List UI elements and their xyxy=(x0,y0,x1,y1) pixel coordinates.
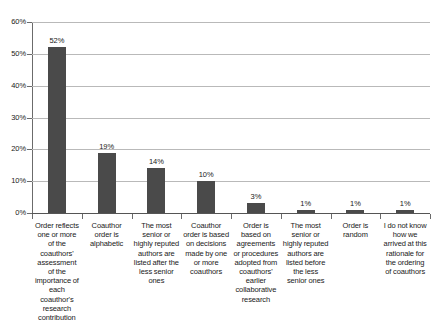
bar[interactable] xyxy=(98,153,116,213)
plot-area: 52%19%14%10%3%1%1%1% xyxy=(32,22,430,213)
bar[interactable] xyxy=(48,47,66,213)
x-axis-category-label: I do not know how we arrived at this rat… xyxy=(382,221,428,276)
x-axis-category-label: Coauthor order is based on decisions mad… xyxy=(183,221,229,276)
y-axis-tick-label: 30% xyxy=(0,114,26,122)
y-axis-tick-label: 40% xyxy=(0,82,26,90)
bar-slot[interactable]: 52% xyxy=(32,22,82,213)
bar-value-label: 10% xyxy=(199,171,214,179)
y-axis-tick-label: 20% xyxy=(0,145,26,153)
bar-slot[interactable]: 14% xyxy=(132,22,182,213)
x-axis-category-label: Coauthor order is alphabetic xyxy=(84,221,130,249)
bar-value-label: 1% xyxy=(300,200,311,208)
y-axis-tick-label-text: 0% xyxy=(0,209,26,217)
x-axis-tick-mark xyxy=(181,214,182,219)
bar-value-label: 14% xyxy=(149,158,164,166)
x-axis-tick-mark xyxy=(281,214,282,219)
y-axis-tick-label-text: 60% xyxy=(0,18,26,26)
x-axis-tick-mark xyxy=(380,214,381,219)
y-axis-tick-mark xyxy=(27,149,32,150)
bar-value-label: 1% xyxy=(350,200,361,208)
y-axis-tick-label-text: 10% xyxy=(0,177,26,185)
x-axis-category-label: The most senior or highly reputed author… xyxy=(283,221,329,285)
y-axis-tick-label-text: 20% xyxy=(0,145,26,153)
bar-slot[interactable]: 1% xyxy=(331,22,381,213)
y-axis-tick-label: 60% xyxy=(0,18,26,26)
y-axis-tick-mark xyxy=(27,22,32,23)
x-axis-category-label: Order reflects one or more of the coauth… xyxy=(34,221,80,322)
x-axis-category-labels: Order reflects one or more of the coauth… xyxy=(32,221,430,315)
y-axis-tick-mark xyxy=(27,86,32,87)
bar-slot[interactable]: 10% xyxy=(181,22,231,213)
y-axis-tick-label: 10% xyxy=(0,177,26,185)
y-axis-tick-label: 0% xyxy=(0,209,26,217)
bar-value-label: 1% xyxy=(400,200,411,208)
x-axis-tick-mark xyxy=(82,214,83,219)
bar-value-label: 52% xyxy=(50,37,65,45)
y-axis-tick-label-text: 30% xyxy=(0,114,26,122)
bar-slot[interactable]: 1% xyxy=(380,22,430,213)
y-axis-tick-label: 50% xyxy=(0,50,26,58)
x-axis-tick-mark xyxy=(32,214,33,219)
bar-value-label: 3% xyxy=(251,193,262,201)
x-axis-category-label: Order is random xyxy=(333,221,379,239)
y-axis-tick-label-text: 40% xyxy=(0,82,26,90)
bar-slot[interactable]: 19% xyxy=(82,22,132,213)
x-axis-tick-mark xyxy=(231,214,232,219)
x-axis-tick-mark xyxy=(331,214,332,219)
x-axis-category-label: The most senior or highly reputed author… xyxy=(134,221,180,285)
bar-value-label: 19% xyxy=(99,143,114,151)
y-axis-tick-mark xyxy=(27,54,32,55)
bar[interactable] xyxy=(197,181,215,213)
bar-slot[interactable]: 3% xyxy=(231,22,281,213)
bar[interactable] xyxy=(247,203,265,213)
y-axis-tick-mark xyxy=(27,181,32,182)
x-axis-category-label: Order is based on agreements or procedur… xyxy=(233,221,279,304)
y-axis-tick-mark xyxy=(27,118,32,119)
x-axis-tick-mark xyxy=(132,214,133,219)
x-axis-tick-mark xyxy=(430,214,431,219)
bar[interactable] xyxy=(147,168,165,213)
bar-slot[interactable]: 1% xyxy=(281,22,331,213)
y-axis-tick-label-text: 50% xyxy=(0,50,26,58)
